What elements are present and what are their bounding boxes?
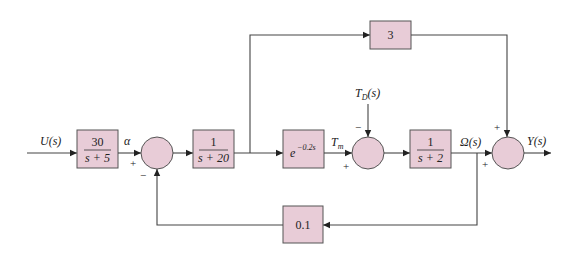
block-diagram: U(s) 30 s + 5 α + − 1 s + 20 3 e −0.2s T… [0,0,574,255]
block-feedback-gain: 0.1 [283,206,323,243]
feedforward-wire-out [411,35,507,137]
block1-numerator: 30 [92,135,104,149]
output-label: Y(s) [527,134,546,148]
summing-junction-2 [352,137,384,169]
block-1-over-s-plus-20: 1 s + 20 [193,130,234,168]
block2-denominator: s + 20 [198,151,229,165]
block-time-delay: e −0.2s [283,130,324,168]
block3-denominator: s + 2 [418,151,443,165]
block1-denominator: s + 5 [85,151,110,165]
sum1-plus-sign: + [130,157,136,169]
sum3-plus-left: + [482,158,488,170]
summing-junction-1 [141,137,173,169]
input-label: U(s) [40,134,61,148]
block-gain-3: 3 [370,21,411,49]
block2-numerator: 1 [211,135,217,149]
alpha-label: α [124,134,131,148]
sum1-minus-sign: − [140,169,146,181]
sum2-minus-sign: − [355,121,361,133]
block3-numerator: 1 [428,135,434,149]
feedback-wire-out [157,169,283,225]
block-30-over-s-plus-5: 30 s + 5 [77,130,118,168]
feedforward-gain: 3 [388,28,394,42]
summing-junction-3 [492,137,524,169]
block-1-over-s-plus-2: 1 s + 2 [410,130,451,168]
tm-label: Tm [331,135,344,151]
sum3-plus-top: + [494,121,500,133]
delay-base: e [290,146,296,160]
disturbance-label: TD(s) [355,86,380,102]
delay-exponent: −0.2s [297,143,316,152]
sum2-plus-sign: + [343,160,349,172]
omega-label: Ω(s) [460,135,481,149]
feedback-gain: 0.1 [296,218,311,232]
